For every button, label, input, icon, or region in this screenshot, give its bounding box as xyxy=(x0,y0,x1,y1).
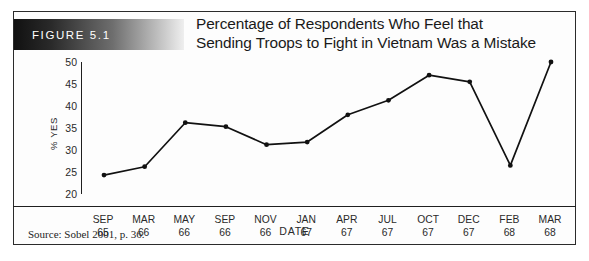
figure-number-banner: FIGURE 5.1 xyxy=(14,19,184,50)
y-axis-tick-label: 35 xyxy=(55,122,77,134)
chart-title-line-1: Percentage of Respondents Who Feel that xyxy=(196,14,571,33)
series-line xyxy=(104,62,551,175)
data-point-marker xyxy=(549,60,554,65)
data-point-marker xyxy=(427,73,432,78)
y-axis-tick-label: 50 xyxy=(55,56,77,68)
data-point-marker xyxy=(224,124,229,129)
data-point-marker xyxy=(264,142,269,147)
figure-number-label: FIGURE 5.1 xyxy=(14,29,111,41)
x-axis-line xyxy=(13,206,576,207)
y-axis-tick-label: 25 xyxy=(55,166,77,178)
chart-title: Percentage of Respondents Who Feel that … xyxy=(196,14,571,52)
line-series xyxy=(82,62,569,194)
y-axis-tick-label: 30 xyxy=(55,144,77,156)
figure-root: FIGURE 5.1 Percentage of Respondents Who… xyxy=(0,0,589,261)
chart-title-line-2: Sending Troops to Fight in Vietnam Was a… xyxy=(196,33,571,52)
data-point-marker xyxy=(508,163,513,168)
data-point-marker xyxy=(183,120,188,125)
data-point-marker xyxy=(386,98,391,103)
data-point-marker xyxy=(305,140,310,145)
data-point-marker xyxy=(102,173,107,178)
y-axis-tick-label: 20 xyxy=(55,188,77,200)
data-point-marker xyxy=(142,164,147,169)
plot-area xyxy=(81,62,569,194)
data-point-marker xyxy=(345,112,350,117)
data-point-marker xyxy=(467,79,472,84)
source-note: Source: Sobel 2001, p. 36. xyxy=(28,228,144,240)
y-axis-tick-labels: 20253035404550 xyxy=(51,62,77,194)
y-axis-tick-label: 45 xyxy=(55,78,77,90)
plot-wrapper: % YES 20253035404550 SEP65MAR66MAY66SEP6… xyxy=(13,56,576,208)
y-axis-tick-label: 40 xyxy=(55,100,77,112)
